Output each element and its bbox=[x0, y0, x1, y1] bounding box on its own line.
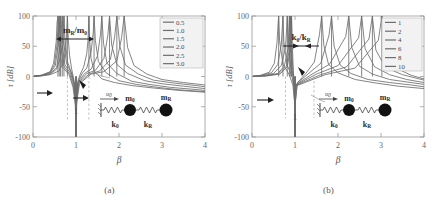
x-tick-label: 3 bbox=[160, 141, 164, 150]
legend-label: 2.0 bbox=[176, 43, 185, 50]
y-tick-label: 0 bbox=[245, 73, 249, 82]
y-tick-label: 50 bbox=[241, 42, 249, 51]
x-tick-label: 0 bbox=[250, 141, 254, 150]
legend-b[interactable]: 1246810 bbox=[382, 18, 422, 71]
y-tick-label: -100 bbox=[234, 133, 249, 142]
legend-label: 1 bbox=[398, 19, 401, 26]
mass-m0 bbox=[124, 104, 136, 116]
legend-label: 1.0 bbox=[176, 27, 185, 34]
y-tick-label: -50 bbox=[19, 103, 30, 112]
legend-label: 8 bbox=[398, 54, 402, 61]
caption-b: (b) bbox=[219, 185, 438, 195]
y-tick-label: 100 bbox=[237, 12, 249, 21]
x-tick-label: 1 bbox=[74, 141, 78, 150]
y-axis-label: τ [dB] bbox=[224, 66, 234, 87]
legend-label: 2 bbox=[398, 28, 402, 35]
y-tick-label: 0 bbox=[26, 73, 30, 82]
x-tick-label: 2 bbox=[117, 141, 121, 150]
y-tick-label: 100 bbox=[18, 12, 30, 21]
plot-a-svg: 100 50 0 -50 -100 0 1 2 3 4 bbox=[0, 0, 219, 197]
y-axis-label: τ [dB] bbox=[5, 66, 15, 87]
figure-container: 100 50 0 -50 -100 0 1 2 3 4 bbox=[0, 0, 438, 197]
x-axis-label: β bbox=[335, 155, 341, 165]
legend-label: 3.0 bbox=[176, 60, 185, 67]
legend-label: 4 bbox=[398, 36, 402, 43]
mass-mR bbox=[160, 104, 173, 117]
x-tick-label: 3 bbox=[379, 141, 383, 150]
x-tick-label: 1 bbox=[293, 141, 297, 150]
y-tick-label: 50 bbox=[22, 42, 30, 51]
annotation-label-mass-ratio: mR/m0 bbox=[63, 25, 87, 36]
caption-a: (a) bbox=[0, 185, 219, 195]
x-tick-label: 4 bbox=[203, 141, 207, 150]
plot-b-svg: 100 50 0 -50 -100 0 1 2 3 4 β bbox=[219, 0, 438, 197]
y-tick-label: -100 bbox=[15, 133, 30, 142]
x-tick-label: 2 bbox=[336, 141, 340, 150]
legend-a[interactable]: 0.51.01.52.02.53.0 bbox=[160, 18, 203, 68]
mass-mR bbox=[379, 104, 392, 117]
mass-m0 bbox=[343, 104, 355, 116]
x-one-marker-b: 1 bbox=[293, 112, 298, 122]
y-tick-label: -50 bbox=[238, 103, 249, 112]
legend-label: 6 bbox=[398, 45, 402, 52]
x-tick-label: 4 bbox=[422, 141, 426, 150]
panel-a: 100 50 0 -50 -100 0 1 2 3 4 bbox=[0, 0, 219, 197]
legend-label: 10 bbox=[398, 63, 405, 70]
legend-label: 0.5 bbox=[176, 19, 185, 26]
legend-label: 2.5 bbox=[176, 52, 185, 59]
x-tick-label: 0 bbox=[31, 141, 35, 150]
panel-b: 100 50 0 -50 -100 0 1 2 3 4 β bbox=[219, 0, 438, 197]
x-axis-label: β bbox=[116, 155, 122, 165]
legend-label: 1.5 bbox=[176, 35, 185, 42]
x-one-marker-a: 1 bbox=[74, 106, 79, 116]
